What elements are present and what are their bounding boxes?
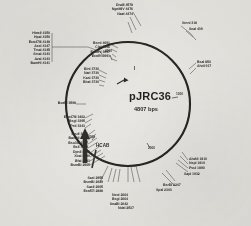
site-label-nspi: NspI 1810 <box>189 161 207 165</box>
site-label-eco57i: Eco57I 2888 <box>84 189 103 193</box>
scale-tick-2000: 2000 <box>148 146 155 150</box>
site-label-xmni: XmnI 318 <box>182 21 197 25</box>
site-group-bottom-center-stack: NcoI 2664 BsgI 2664 SnaBI 2642 <box>128 193 146 206</box>
site-label-pvui: PvuI 1890 <box>189 166 207 170</box>
scale-tick-1000: 1000 <box>176 92 183 96</box>
site-group-right-mid-stack: BsaI 850 AhdI 917 <box>197 60 211 69</box>
site-group-right-lower-stack: AlwNI 1810 NspI 1810 PvuI 1890 <box>189 157 207 170</box>
site-label-bamhi-4141: BamHI 4141 <box>29 61 50 65</box>
site-label-ndei: NdeI 2537 <box>118 206 134 210</box>
site-group-bottom-left-stack: SacI 2955 BsmBI 2929 SacII 2905 Eco57I 2… <box>103 176 122 193</box>
site-label-ecori: EcoRI 3991 <box>90 54 110 58</box>
plasmid-size: 4807 bps <box>134 106 158 112</box>
site-label-spei: SpeI 2303 <box>156 188 172 192</box>
plasmid-name: pJRC36 <box>129 90 171 102</box>
site-label-bseri: BseRI 3598 <box>58 101 76 105</box>
site-group-top-left-cluster: DraIII 4578 NgoMIV 4476 NaeI 4474 <box>133 3 154 16</box>
site-label-bcli: BclI 3152 <box>68 145 88 149</box>
site-group-far-left-stack: HincII 4150 HpaI 4150 Eco47III 4148 AccI… <box>50 31 71 65</box>
site-group-left-lower-stack: PvuII 3242 BamHI 3172 Bsu36I 3167 BclI 3… <box>88 132 108 149</box>
site-label-bsrdi: BsrDI 2247 <box>163 183 181 187</box>
site-label-bsmbi-2965: BsmBI 2965 <box>71 163 90 167</box>
site-group-bseri-single: BseRI 3598 <box>76 101 94 105</box>
plasmid-map-page: { "plasmid": { "name": "pJRC36", "size_l… <box>0 0 251 226</box>
internal-marker-arrow <box>117 78 129 85</box>
site-group-left-bottom-stack: DpnII 3036 XbaI 2989 BfaI 2983 BsmBI 296… <box>90 150 109 167</box>
site-group-left-3730-stack: BlnI 3730 NarI 3730 KasI 3730 BbeI 3730 <box>99 67 115 84</box>
site-label-bbei: BbeI 3730 <box>83 80 99 84</box>
site-group-upper-mid-stack: BsmI 4091 ClaI 3996 EcoRV 3997 EcoRI 399… <box>110 41 130 58</box>
feature-label-I: I <box>134 66 135 71</box>
site-label-sapi: SapI 1932 <box>184 172 200 176</box>
site-label-ahdi: AhdI 917 <box>197 64 211 68</box>
site-label-psti: PstI 3343 <box>64 124 85 128</box>
site-label-naei: NaeI 4474 <box>112 12 133 16</box>
site-group-left-mid-stack: Eco47III 3462 BsgI 3395 PstI 3343 <box>85 115 106 128</box>
site-label-scai: ScaI 439 <box>189 27 203 31</box>
